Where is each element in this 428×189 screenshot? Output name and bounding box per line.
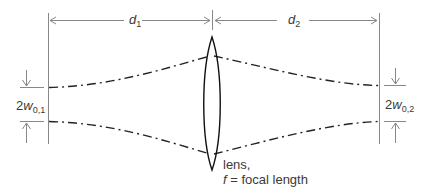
lens-label: lens, f = focal length xyxy=(223,157,308,187)
d2-label: d2 xyxy=(288,13,300,29)
gaussian-beam-lens-diagram xyxy=(0,0,428,189)
waist1-label: 2w0,1 xyxy=(16,99,45,115)
beam-envelope xyxy=(49,56,379,154)
waist2-label: 2w0,2 xyxy=(385,98,414,114)
d1-label: d1 xyxy=(129,13,141,29)
